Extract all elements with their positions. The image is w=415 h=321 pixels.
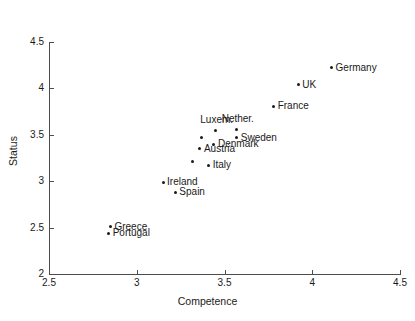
y-tick-mark	[50, 228, 54, 229]
point-marker	[207, 164, 210, 167]
point-marker	[200, 136, 203, 139]
point-marker	[109, 225, 112, 228]
point-label: Spain	[179, 187, 205, 197]
y-tick-mark	[50, 135, 54, 136]
point-label: Portugal	[113, 228, 150, 238]
x-tick-mark	[49, 270, 50, 274]
point-marker	[214, 129, 217, 132]
x-axis-title: Competence	[0, 295, 415, 307]
point-marker	[174, 191, 177, 194]
point-marker	[235, 128, 238, 131]
x-tick-label: 2.5	[34, 277, 64, 288]
point-label: Germany	[336, 63, 377, 73]
x-tick-label: 4.5	[385, 277, 415, 288]
x-tick-label: 3	[122, 277, 152, 288]
x-tick-mark	[400, 270, 401, 274]
x-tick-label: 3.5	[210, 277, 240, 288]
y-tick-mark	[50, 181, 54, 182]
point-marker	[272, 105, 275, 108]
scatter-chart: 22.533.544.5 2.533.544.5 GermanyUKFrance…	[0, 0, 415, 321]
point-marker	[162, 181, 165, 184]
x-tick-mark	[137, 270, 138, 274]
point-marker	[191, 160, 194, 163]
point-marker	[107, 232, 110, 235]
point-marker	[198, 147, 201, 150]
y-tick-label: 2.5	[14, 222, 44, 233]
point-label: Austria	[204, 144, 235, 154]
y-tick-label: 4	[14, 82, 44, 93]
point-marker	[297, 83, 300, 86]
y-tick-label: 4.5	[14, 36, 44, 47]
y-tick-mark	[50, 274, 54, 275]
x-tick-mark	[225, 270, 226, 274]
y-axis-line	[49, 42, 50, 275]
x-tick-label: 4	[297, 277, 327, 288]
y-tick-mark	[50, 42, 54, 43]
x-tick-mark	[312, 270, 313, 274]
point-marker	[330, 66, 333, 69]
y-tick-mark	[50, 88, 54, 89]
point-label: France	[278, 101, 309, 111]
x-axis-line	[49, 274, 401, 275]
point-label: Nether.	[219, 114, 257, 124]
y-axis-title: Status	[7, 116, 19, 186]
point-label: UK	[302, 80, 316, 90]
point-label: Italy	[213, 160, 231, 170]
